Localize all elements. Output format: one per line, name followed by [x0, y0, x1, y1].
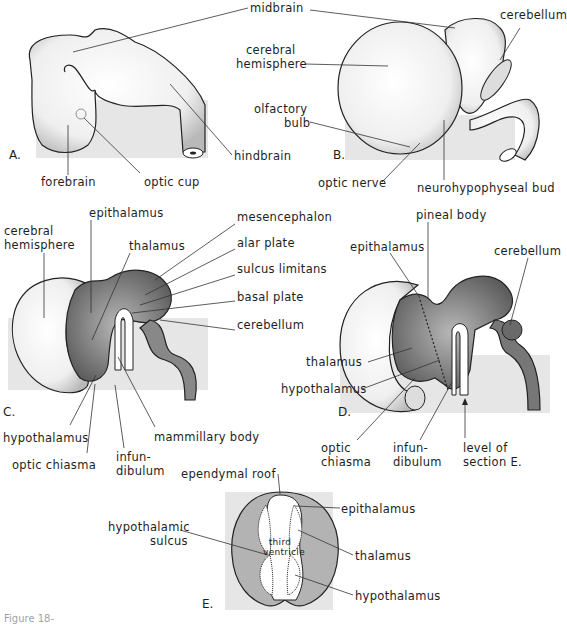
label-c-sulcus-limitans: sulcus limitans — [237, 262, 327, 276]
label-d-cerebellum: cerebellum — [494, 244, 561, 258]
label-b-olfactory: olfactory — [254, 102, 307, 116]
panel-b-cerebral-hemisphere — [338, 22, 462, 154]
label-c-mesencephalon: mesencephalon — [237, 210, 332, 224]
panel-d-optic-chiasma-bulge — [405, 386, 425, 410]
label-c-hemisphere: hemisphere — [4, 238, 75, 252]
label-e-ependymal-roof: ependymal roof — [181, 467, 276, 481]
label-d-pineal-body: pineal body — [416, 208, 487, 222]
label-b-neurohypophyseal-bud: neurohypophyseal bud — [417, 181, 555, 195]
panel-d-cerebellum — [502, 320, 522, 340]
leader-d-cerebellum — [510, 258, 528, 325]
label-e-sulcus: sulcus — [150, 534, 188, 548]
label-d-section-e: section E. — [463, 455, 522, 469]
label-c-mammillary-body: mammillary body — [154, 430, 259, 444]
label-hindbrain: hindbrain — [234, 149, 291, 163]
panel-d-ventricle-channel — [452, 324, 468, 395]
label-d-chiasma: chiasma — [321, 455, 371, 469]
label-d-optic: optic — [321, 441, 351, 455]
panel-e-letter: E. — [202, 597, 213, 611]
label-e-hypothalamic: hypothalamic — [108, 520, 190, 534]
panel-a-lumen — [190, 152, 196, 155]
label-e-epithalamus: epithalamus — [341, 502, 415, 516]
label-d-infun: infun- — [393, 441, 428, 455]
panel-a-letter: A. — [9, 148, 21, 162]
label-c-basal-plate: basal plate — [237, 290, 304, 304]
label-b-hemisphere: hemisphere — [236, 57, 307, 71]
label-d-dibulum: dibulum — [393, 455, 442, 469]
label-c-hypothalamus: hypothalamus — [3, 431, 89, 445]
label-e-third: third — [263, 537, 297, 547]
panel-c — [8, 220, 235, 453]
label-c-cerebellum: cerebellum — [237, 318, 304, 332]
panel-a — [29, 8, 248, 175]
leader-c-infundibulum — [115, 385, 124, 448]
label-b-optic-nerve: optic nerve — [318, 176, 386, 190]
label-e-thalamus: thalamus — [355, 549, 411, 563]
label-d-level-of: level of — [463, 441, 508, 455]
panel-c-letter: C. — [3, 405, 15, 419]
label-c-cerebral: cerebral — [4, 224, 54, 238]
label-c-epithalamus: epithalamus — [89, 206, 163, 220]
label-d-thalamus: thalamus — [306, 355, 362, 369]
panel-d-letter: D. — [338, 405, 351, 419]
label-b-cerebellum: cerebellum — [500, 8, 567, 22]
label-c-thalamus: thalamus — [129, 239, 185, 253]
label-c-alar-plate: alar plate — [237, 236, 295, 250]
figure-caption: Figure 18- — [4, 613, 54, 624]
label-d-epithalamus: epithalamus — [350, 240, 424, 254]
panel-b-letter: B. — [333, 148, 345, 162]
label-e-hypothalamus: hypothalamus — [355, 589, 441, 603]
label-c-infun: infun- — [116, 450, 151, 464]
label-midbrain: midbrain — [250, 1, 304, 15]
leader-e-ependymal-roof — [278, 474, 280, 494]
label-c-dibulum: dibulum — [116, 464, 165, 478]
label-optic-cup: optic cup — [144, 175, 200, 189]
label-b-cerebral: cerebral — [246, 43, 296, 57]
label-e-ventricle: ventricle — [263, 547, 297, 557]
label-d-hypothalamus: hypothalamus — [281, 382, 367, 396]
label-b-bulb: bulb — [284, 116, 310, 130]
label-forebrain: forebrain — [41, 175, 96, 189]
label-c-optic-chiasma: optic chiasma — [12, 458, 96, 472]
